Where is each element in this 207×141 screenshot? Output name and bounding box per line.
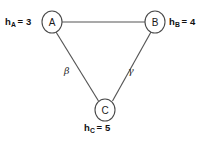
heuristic-equals-c: = bbox=[96, 122, 102, 133]
heuristic-label-c: hC= 5 bbox=[84, 123, 111, 133]
heuristic-subscript-b: B bbox=[175, 21, 180, 28]
heuristic-label-a: hA= 3 bbox=[5, 17, 32, 27]
heuristic-equals-b: = bbox=[181, 16, 187, 27]
heuristic-value-b: 4 bbox=[190, 16, 195, 27]
heuristic-subscript-a: A bbox=[11, 21, 16, 28]
node-b-letter: B bbox=[152, 17, 159, 28]
diagram-canvas: A B C hA= 3 hB= 4 hC= 5 β γ bbox=[0, 0, 207, 141]
edge-label-gamma: γ bbox=[128, 66, 134, 76]
heuristic-value-a: 3 bbox=[26, 16, 31, 27]
heuristic-equals-a: = bbox=[17, 16, 23, 27]
edge-label-beta: β bbox=[64, 66, 70, 76]
node-c-letter: C bbox=[101, 105, 108, 116]
node-a-letter: A bbox=[49, 17, 56, 28]
heuristic-value-c: 5 bbox=[105, 122, 110, 133]
heuristic-label-b: hB= 4 bbox=[169, 17, 196, 27]
node-b[interactable]: B bbox=[145, 11, 165, 33]
heuristic-subscript-c: C bbox=[90, 127, 95, 134]
edge-a-c bbox=[56, 32, 99, 101]
node-c[interactable]: C bbox=[95, 99, 115, 121]
node-a[interactable]: A bbox=[42, 11, 62, 33]
